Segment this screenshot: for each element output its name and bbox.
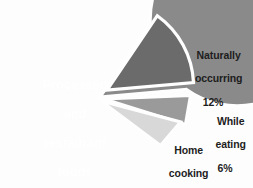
pie-label-line: eating <box>215 138 245 150</box>
pie-label-line: cooking <box>169 167 209 179</box>
pie-label-line: foods <box>58 164 93 179</box>
pie-label-processed-and-restaurant-foods: Processed and restaurant foods 77% <box>12 63 124 188</box>
pie-label-line: and <box>64 106 87 121</box>
pie-label-line: While <box>217 115 245 127</box>
pie-label-line: restaurant <box>44 135 107 150</box>
pie-label-line: occurring <box>195 72 243 84</box>
pie-chart-figure: Processed and restaurant foods 77% Natur… <box>0 0 253 188</box>
pie-label-line: Processed <box>43 77 108 92</box>
pie-label-line: Home <box>174 144 203 156</box>
pie-label-line: Naturally <box>197 49 241 61</box>
pie-label-home-cooking: Home cooking 5% <box>152 133 214 188</box>
